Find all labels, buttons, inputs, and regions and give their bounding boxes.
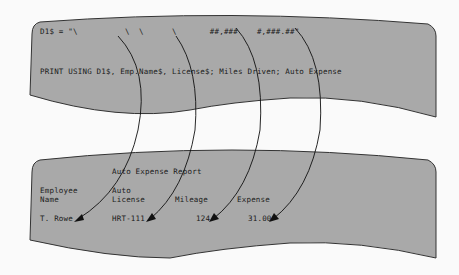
report-title: Auto Expense Report bbox=[112, 167, 202, 176]
header-license-line2: License bbox=[112, 195, 145, 204]
header-expense: Expense bbox=[237, 195, 270, 204]
row-expense: 31.00 bbox=[248, 214, 272, 223]
diagram-canvas bbox=[0, 0, 459, 275]
bottom-output-panel bbox=[30, 150, 436, 258]
header-license-line1: Auto bbox=[112, 186, 131, 195]
row-name: T. Rowe bbox=[40, 214, 73, 223]
header-mileage: Mileage bbox=[175, 195, 208, 204]
format-string-line: D1$ = "\ \ \ \ ##,### #,###.##" bbox=[40, 27, 299, 36]
row-mileage: 124 bbox=[196, 214, 210, 223]
print-using-line: PRINT USING D1$, Emp.Name$, License$; Mi… bbox=[40, 67, 342, 76]
header-employee-line1: Employee bbox=[40, 186, 78, 195]
row-license: HRT-111 bbox=[112, 214, 145, 223]
header-employee-line2: Name bbox=[40, 195, 59, 204]
